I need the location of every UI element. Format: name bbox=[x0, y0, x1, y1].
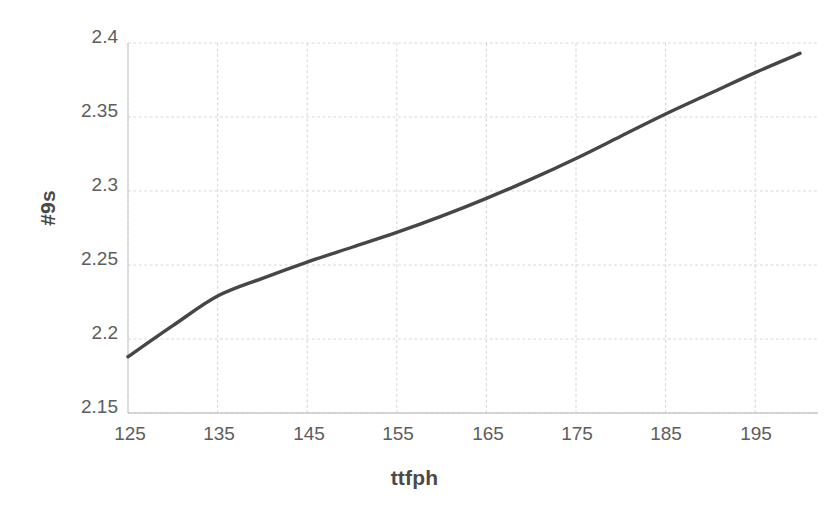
data-series-layer bbox=[128, 53, 800, 356]
data-line bbox=[128, 53, 800, 356]
gridlines bbox=[128, 43, 818, 413]
chart-container: #9s ttfph 2.15 2.2 2.25 2.3 2.35 2.4 125… bbox=[0, 0, 829, 513]
plot-area bbox=[0, 0, 829, 513]
axis-lines bbox=[128, 43, 818, 413]
